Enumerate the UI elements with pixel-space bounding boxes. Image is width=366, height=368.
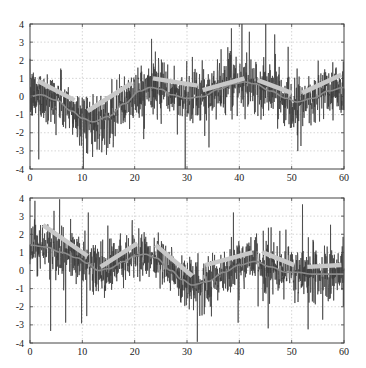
trend-segment [88, 83, 132, 111]
x-tick-label: 60 [339, 346, 349, 357]
y-tick-label: -3 [16, 145, 24, 156]
x-tick-label: 30 [182, 172, 192, 183]
y-tick-label: 1 [19, 247, 24, 258]
bottom-line-plot: 0102030405060-4-3-2-101234 [16, 193, 349, 358]
y-tick-label: 3 [19, 37, 24, 48]
y-tick-label: -1 [16, 283, 24, 294]
x-tick-label: 20 [130, 346, 140, 357]
y-tick-label: 3 [19, 211, 24, 222]
y-tick-label: 2 [19, 229, 24, 240]
trend-segment [307, 265, 341, 267]
x-tick-label: 30 [182, 346, 192, 357]
y-tick-label: 2 [19, 55, 24, 66]
top-line-plot: 0102030405060-4-3-2-101234 [16, 19, 349, 184]
x-tick-label: 0 [28, 346, 33, 357]
x-tick-label: 10 [77, 172, 87, 183]
x-tick-label: 20 [130, 172, 140, 183]
y-tick-label: -2 [16, 127, 24, 138]
x-tick-label: 40 [234, 172, 244, 183]
x-tick-label: 60 [339, 172, 349, 183]
y-tick-label: -4 [16, 164, 24, 175]
y-tick-label: 4 [19, 19, 24, 30]
y-tick-label: 0 [19, 91, 24, 102]
x-tick-label: 50 [287, 346, 297, 357]
x-tick-label: 0 [28, 172, 33, 183]
figure: 0102030405060-4-3-2-101234 0102030405060… [0, 0, 366, 368]
y-tick-label: 4 [19, 193, 24, 204]
y-tick-label: 0 [19, 265, 24, 276]
y-tick-label: 1 [19, 73, 24, 84]
y-tick-label: -4 [16, 338, 24, 349]
x-tick-label: 40 [234, 346, 244, 357]
y-tick-label: -2 [16, 301, 24, 312]
x-tick-label: 10 [77, 346, 87, 357]
y-tick-label: -3 [16, 319, 24, 330]
y-tick-label: -1 [16, 109, 24, 120]
x-tick-label: 50 [287, 172, 297, 183]
